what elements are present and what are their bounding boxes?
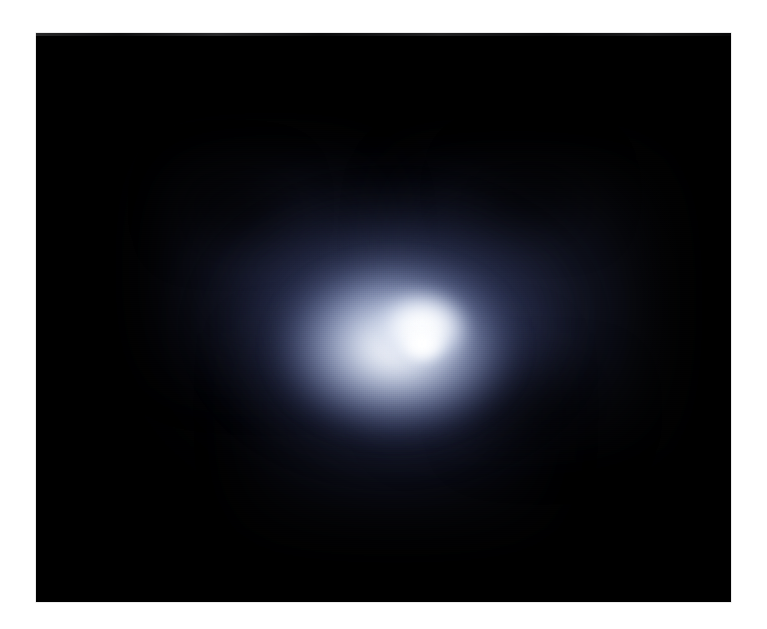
scan-grain-texture [36, 33, 731, 602]
dark-lane-upper-right [466, 153, 596, 233]
halo-patch-right [396, 163, 656, 443]
halo-patch-left [156, 153, 386, 383]
vignette-overlay [36, 33, 731, 602]
dark-lane-upper-left [171, 163, 291, 248]
outer-halo-glow [86, 93, 686, 553]
page-root [0, 0, 767, 629]
core-peak [388, 315, 456, 373]
inner-glow [271, 248, 536, 448]
nuclear-core [354, 273, 490, 383]
scan-top-edge [36, 33, 731, 36]
astronomical-image-plate [36, 33, 731, 602]
dark-lane-lower-right [466, 363, 616, 458]
halo-patch-bottom [246, 333, 546, 523]
mid-halo-glow [176, 173, 596, 483]
